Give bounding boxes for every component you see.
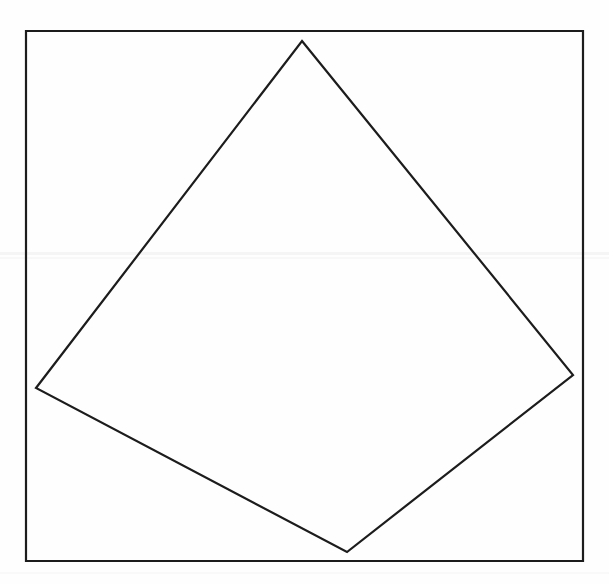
figure-canvas: Geometric figure: quadrilateral inscribe…	[0, 0, 609, 584]
bounding-rectangle-shape	[26, 31, 583, 561]
inscribed-quadrilateral-shape	[36, 41, 573, 552]
geometry-figure	[0, 0, 609, 584]
